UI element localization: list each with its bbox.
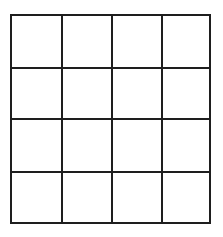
grid-horizontal-line-2 xyxy=(12,118,209,120)
grid-horizontal-line-3 xyxy=(12,171,209,173)
grid-4x4 xyxy=(10,14,211,224)
grid-horizontal-line-1 xyxy=(12,67,209,69)
canvas xyxy=(0,0,223,237)
